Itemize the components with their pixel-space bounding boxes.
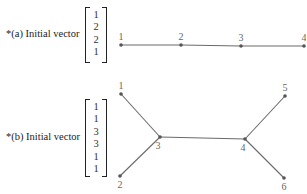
part-b-node-2 [118,174,122,178]
part-a-node-2 [179,43,183,47]
part-a-node-label: 2 [179,31,184,42]
part-b-edge-4-6 [245,139,284,178]
part-a-node-1 [119,43,123,47]
part-a-node-label: 4 [302,32,307,43]
part-b-edge-3-4 [160,137,245,139]
part-a-node-label: 1 [119,31,124,42]
part-a-node-4 [302,44,306,48]
part-b-node-6 [282,176,286,180]
part-b-node-label: 2 [118,179,123,190]
part-a-edge-2-3 [181,45,241,46]
part-b-node-label: 4 [241,142,246,153]
part-a-node-3 [239,44,243,48]
part-b-edge-4-5 [245,96,285,139]
part-b-node-label: 3 [156,140,161,151]
graph-canvas: 1234123456 [0,0,306,194]
part-b-node-5 [283,94,287,98]
part-b-node-label: 6 [282,181,287,192]
part-b-edge-1-3 [121,94,160,137]
part-b-node-1 [119,92,123,96]
part-b-node-3 [158,135,162,139]
part-a-node-label: 3 [239,32,244,43]
part-b-node-label: 5 [283,82,288,93]
part-b-node-label: 1 [119,80,124,91]
part-b-edge-2-3 [120,137,160,176]
part-b-node-4 [243,137,247,141]
